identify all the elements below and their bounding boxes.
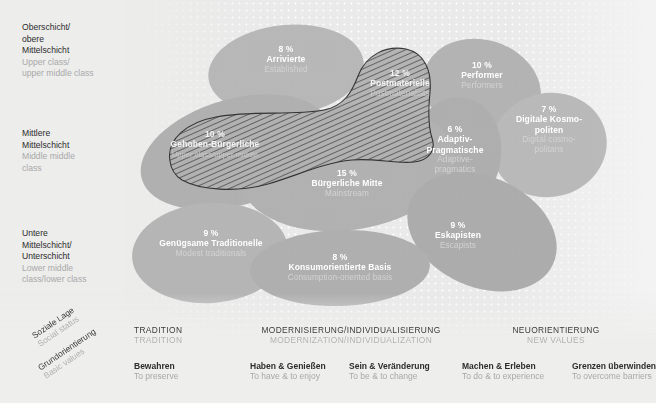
gehoben-de: Gehoben-Bürgerliche xyxy=(150,139,280,149)
social-class-middle: Mittlere Mittelschicht Middle middle cla… xyxy=(22,128,126,174)
digitale-kosmopoliten-en: Digital cosmo- politans xyxy=(497,135,601,155)
mitte-en: Mainstream xyxy=(283,189,411,199)
social-class-lower: Untere Mittelschicht/ Unterschicht Lower… xyxy=(22,228,126,286)
arrivierte-en: Established xyxy=(226,65,346,75)
value-grenzen-ueberwinden: Grenzen überwinden To overcome barriers xyxy=(572,361,656,381)
value-sein-veraenderung: Sein & Veränderung To be & to change xyxy=(349,361,430,381)
value-bewahren-en: To preserve xyxy=(134,371,178,381)
traditionelle-pct: 9 % xyxy=(130,228,292,238)
group-modernisierung: MODERNISIERUNG/INDIVIDUALISIERUNG MODERN… xyxy=(244,325,458,345)
label-performer: 10 % Performer Performers xyxy=(437,60,527,91)
performer-en: Performers xyxy=(437,81,527,91)
gehoben-pct: 10 % xyxy=(150,129,280,139)
performer-de: Performer xyxy=(437,70,527,80)
social-class-upper-de: Oberschicht/ obere Mittelschicht xyxy=(22,22,126,57)
label-arrivierte: 8 % Arrivierte Established xyxy=(226,44,346,75)
values-axis: Soziale Lage Social status Grundorientie… xyxy=(0,307,656,403)
traditionelle-de: Genügsame Traditionelle xyxy=(130,238,292,248)
konsum-de: Konsumorientierte Basis xyxy=(246,262,434,272)
group-neuorientierung-en: NEW VALUES xyxy=(456,335,656,345)
value-bewahren: Bewahren To preserve xyxy=(134,361,178,381)
adaptiv-pct: 6 % xyxy=(412,124,498,134)
digitale-kosmopoliten-pct: 7 % xyxy=(497,104,601,114)
label-eskapisten: 9 % Eskapisten Escapists xyxy=(404,220,512,251)
value-sein-veraenderung-de: Sein & Veränderung xyxy=(349,361,430,371)
social-class-lower-en: Lower middle class/lower class xyxy=(22,263,126,286)
value-machen-erleben-en: To do & to experience xyxy=(462,371,544,381)
group-tradition: TRADITION TRADITION xyxy=(134,325,230,345)
adaptiv-de: Adaptiv- Pragmatische xyxy=(412,134,498,155)
konsum-pct: 8 % xyxy=(246,252,434,262)
social-class-middle-de: Mittlere Mittelschicht xyxy=(22,128,126,151)
group-tradition-en: TRADITION xyxy=(134,335,230,345)
gehoben-en: Upper class/upper middle xyxy=(150,150,280,159)
konsum-en: Consumption-oriented basis xyxy=(246,273,434,283)
group-neuorientierung-de: NEUORIENTIERUNG xyxy=(456,325,656,335)
digitale-kosmopoliten-de: Digitale Kosmo- politen xyxy=(497,114,601,135)
label-adaptiv-pragmatische: 6 % Adaptiv- Pragmatische Adaptive- prag… xyxy=(412,124,498,175)
social-class-upper: Oberschicht/ obere Mittelschicht Upper c… xyxy=(22,22,126,80)
label-digitale-kosmopoliten: 7 % Digitale Kosmo- politen Digital cosm… xyxy=(497,104,601,155)
arrivierte-pct: 8 % xyxy=(226,44,346,54)
arrivierte-de: Arrivierte xyxy=(226,54,346,64)
group-modernisierung-en: MODERNIZATION/INDIVIDUALIZATION xyxy=(244,335,458,345)
group-modernisierung-de: MODERNISIERUNG/INDIVIDUALISIERUNG xyxy=(244,325,458,335)
eskapisten-en: Escapists xyxy=(404,241,512,251)
label-buergerliche-mitte: 15 % Bürgerliche Mitte Mainstream xyxy=(283,168,411,199)
value-haben-geniessen: Haben & Genießen To have & to enjoy xyxy=(250,361,326,381)
value-sein-veraenderung-en: To be & to change xyxy=(349,371,430,381)
value-machen-erleben: Machen & Erleben To do & to experience xyxy=(462,361,544,381)
value-haben-geniessen-en: To have & to enjoy xyxy=(250,371,326,381)
social-class-upper-en: Upper class/ upper middle class xyxy=(22,57,126,80)
sinus-milieus-diagram: 8 % Arrivierte Established 12 % Postmate… xyxy=(0,0,656,403)
social-class-lower-de: Untere Mittelschicht/ Unterschicht xyxy=(22,228,126,263)
performer-pct: 10 % xyxy=(437,60,527,70)
social-class-middle-en: Middle middle class xyxy=(22,151,126,174)
mitte-pct: 15 % xyxy=(283,168,411,178)
mitte-de: Bürgerliche Mitte xyxy=(283,178,411,188)
eskapisten-pct: 9 % xyxy=(404,220,512,230)
value-grenzen-ueberwinden-en: To overcome barriers xyxy=(572,371,656,381)
value-machen-erleben-de: Machen & Erleben xyxy=(462,361,544,371)
label-gehoben-buergerliche: 10 % Gehoben-Bürgerliche Upper class/upp… xyxy=(150,129,280,159)
value-grenzen-ueberwinden-de: Grenzen überwinden xyxy=(572,361,656,371)
adaptiv-en: Adaptive- pragmatics xyxy=(412,155,498,175)
group-neuorientierung: NEUORIENTIERUNG NEW VALUES xyxy=(456,325,656,345)
label-konsumorientierte-basis: 8 % Konsumorientierte Basis Consumption-… xyxy=(246,252,434,283)
value-haben-geniessen-de: Haben & Genießen xyxy=(250,361,326,371)
group-tradition-de: TRADITION xyxy=(134,325,230,335)
eskapisten-de: Eskapisten xyxy=(404,230,512,240)
value-bewahren-de: Bewahren xyxy=(134,361,178,371)
